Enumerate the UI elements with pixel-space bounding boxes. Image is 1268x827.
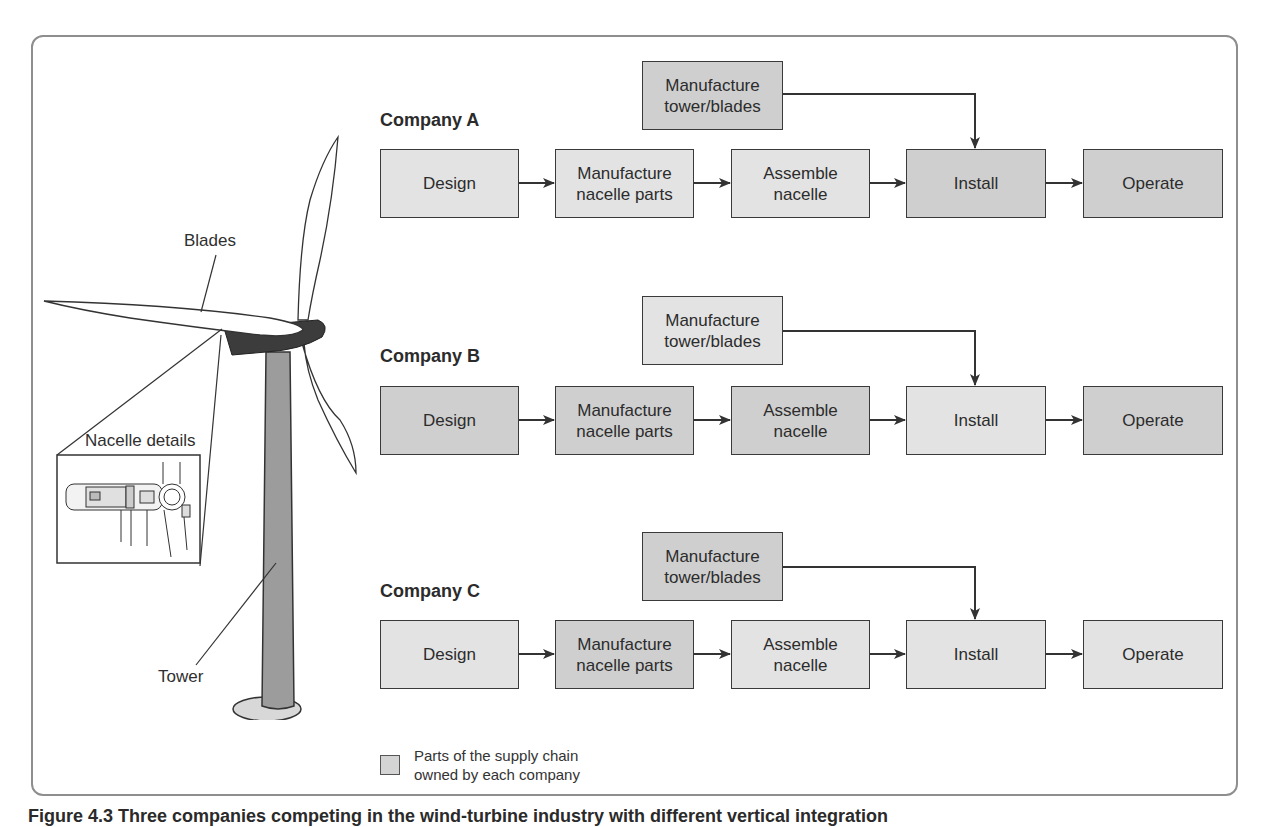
company-c-install: Install bbox=[906, 620, 1046, 689]
company-a-operate: Operate bbox=[1083, 149, 1223, 218]
company-c-design: Design bbox=[380, 620, 519, 689]
company-a-install: Install bbox=[906, 149, 1046, 218]
company-c-title: Company C bbox=[380, 581, 480, 602]
tower-label: Tower bbox=[158, 667, 203, 687]
company-a-design: Design bbox=[380, 149, 519, 218]
legend: Parts of the supply chain owned by each … bbox=[380, 746, 580, 784]
company-c-operate: Operate bbox=[1083, 620, 1223, 689]
blades-label: Blades bbox=[184, 231, 236, 251]
company-b-assemble-nacelle: Assemble nacelle bbox=[731, 386, 870, 455]
blade-upper bbox=[298, 137, 338, 320]
company-c-manufacture-nacelle-parts: Manufacture nacelle parts bbox=[555, 620, 694, 689]
tower-shape bbox=[262, 352, 294, 709]
wind-turbine-illustration bbox=[0, 0, 380, 720]
company-a-manufacture-nacelle-parts: Manufacture nacelle parts bbox=[555, 149, 694, 218]
company-b-manufacture-tower-blades: Manufacture tower/blades bbox=[642, 296, 783, 365]
legend-text: Parts of the supply chain owned by each … bbox=[414, 746, 580, 784]
company-b-design: Design bbox=[380, 386, 519, 455]
company-b-install: Install bbox=[906, 386, 1046, 455]
company-b-title: Company B bbox=[380, 346, 480, 367]
company-a-assemble-nacelle: Assemble nacelle bbox=[731, 149, 870, 218]
company-b-manufacture-nacelle-parts: Manufacture nacelle parts bbox=[555, 386, 694, 455]
blade-horizontal bbox=[44, 301, 303, 336]
legend-swatch bbox=[380, 755, 400, 775]
company-b-operate: Operate bbox=[1083, 386, 1223, 455]
company-c-manufacture-tower-blades: Manufacture tower/blades bbox=[642, 532, 783, 601]
nacelle-details-label: Nacelle details bbox=[85, 431, 196, 451]
company-a-manufacture-tower-blades: Manufacture tower/blades bbox=[642, 61, 783, 130]
figure-caption: Figure 4.3 Three companies competing in … bbox=[28, 806, 888, 827]
company-c-assemble-nacelle: Assemble nacelle bbox=[731, 620, 870, 689]
blade-lower bbox=[302, 343, 356, 473]
company-a-title: Company A bbox=[380, 110, 479, 131]
